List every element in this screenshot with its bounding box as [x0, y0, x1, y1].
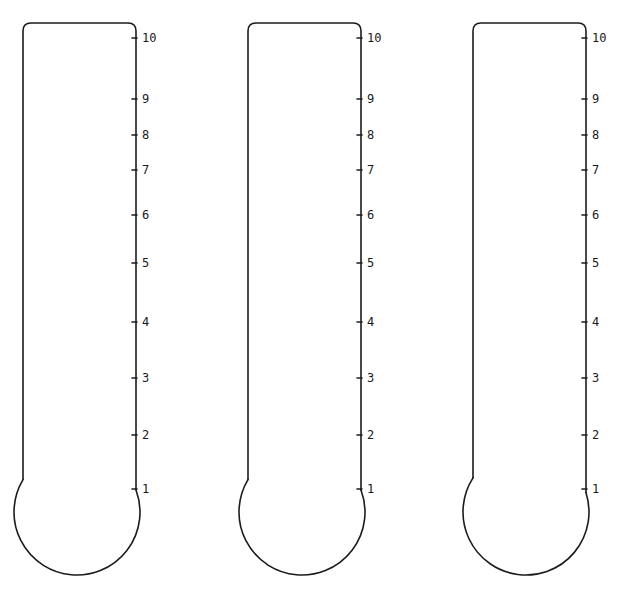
scale-tick-label: 4: [367, 315, 374, 329]
thermometer-group: 109876543211098765432110987654321: [14, 23, 606, 575]
thermometer-stem-outline: [473, 23, 586, 493]
scale-tick-label: 1: [592, 482, 599, 496]
thermometer-bulb-outline: [239, 480, 365, 575]
thermometer-bulb-outline: [463, 478, 589, 575]
scale-tick-label: 10: [592, 31, 606, 45]
scale-tick-label: 4: [142, 315, 149, 329]
scale-tick-label: 5: [592, 256, 599, 270]
scale-tick-label: 2: [592, 428, 599, 442]
thermometer-1: 10987654321: [14, 23, 156, 575]
scale-tick-label: 10: [367, 31, 381, 45]
thermometer-stem-outline: [23, 23, 136, 490]
scale-tick-label: 2: [142, 428, 149, 442]
scale-tick-label: 5: [142, 256, 149, 270]
thermometer-sheet: 109876543211098765432110987654321: [0, 0, 627, 594]
scale-tick-label: 8: [142, 128, 149, 142]
thermometer-2: 10987654321: [239, 23, 381, 575]
thermometer-bulb-outline: [14, 480, 140, 575]
scale-tick-label: 7: [142, 163, 149, 177]
scale-tick-label: 6: [592, 208, 599, 222]
scale-tick-label: 9: [142, 92, 149, 106]
thermometer-3: 10987654321: [463, 23, 606, 575]
scale-tick-label: 1: [367, 482, 374, 496]
scale-tick-label: 8: [367, 128, 374, 142]
scale-tick-label: 2: [367, 428, 374, 442]
scale-tick-label: 7: [592, 163, 599, 177]
scale-tick-label: 8: [592, 128, 599, 142]
scale-tick-label: 3: [142, 371, 149, 385]
scale-tick-label: 3: [592, 371, 599, 385]
scale-tick-label: 10: [142, 31, 156, 45]
scale-tick-label: 9: [592, 92, 599, 106]
scale-tick-label: 6: [367, 208, 374, 222]
scale-tick-label: 5: [367, 256, 374, 270]
thermometer-stem-outline: [248, 23, 361, 490]
scale-tick-label: 7: [367, 163, 374, 177]
scale-tick-label: 9: [367, 92, 374, 106]
scale-tick-label: 4: [592, 315, 599, 329]
scale-tick-label: 6: [142, 208, 149, 222]
scale-tick-label: 3: [367, 371, 374, 385]
scale-tick-label: 1: [142, 482, 149, 496]
